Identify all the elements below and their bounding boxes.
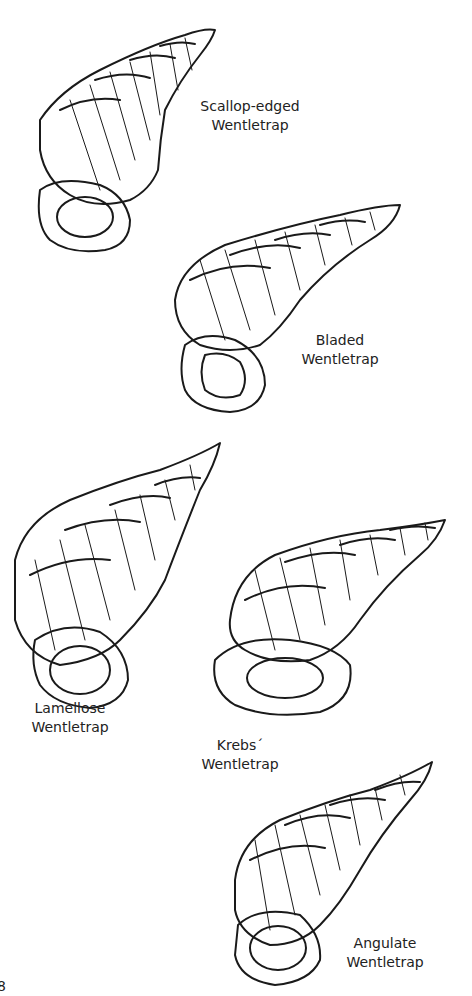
page-number: 8 bbox=[0, 978, 6, 994]
label-line-1: Angulate bbox=[343, 934, 427, 953]
label-line-2: Wentletrap bbox=[343, 953, 427, 972]
label-lamellose-wentletrap: Lamellose Wentletrap bbox=[28, 699, 112, 737]
shell-illustrations bbox=[0, 0, 472, 996]
label-line-1: Krebs´ bbox=[198, 736, 282, 755]
lamellose-wentletrap-drawing bbox=[15, 443, 220, 708]
label-krebs-wentletrap: Krebs´ Wentletrap bbox=[198, 736, 282, 774]
krebs-wentletrap-drawing bbox=[214, 520, 445, 715]
label-angulate-wentletrap: Angulate Wentletrap bbox=[343, 934, 427, 972]
label-line-1: Lamellose bbox=[28, 699, 112, 718]
label-bladed-wentletrap: Bladed Wentletrap bbox=[300, 331, 380, 369]
label-line-2: Wentletrap bbox=[195, 116, 305, 135]
label-line-1: Scallop-edged bbox=[195, 97, 305, 116]
label-line-2: Wentletrap bbox=[198, 755, 282, 774]
label-scallop-edged-wentletrap: Scallop-edged Wentletrap bbox=[195, 97, 305, 135]
label-line-2: Wentletrap bbox=[28, 718, 112, 737]
bladed-wentletrap-drawing bbox=[175, 205, 400, 412]
label-line-1: Bladed bbox=[300, 331, 380, 350]
scallop-edged-wentletrap-drawing bbox=[39, 30, 215, 252]
label-line-2: Wentletrap bbox=[300, 350, 380, 369]
